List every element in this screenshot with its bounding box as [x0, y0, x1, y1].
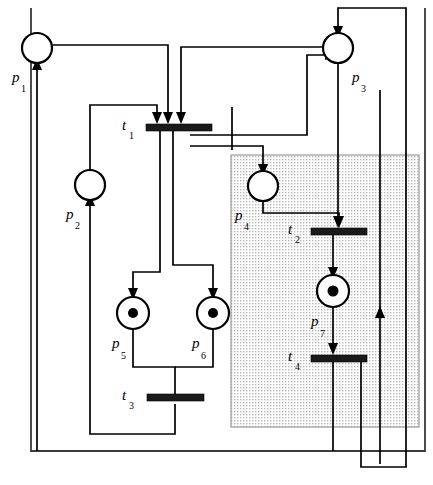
- label-p6-sub: 6: [201, 350, 206, 361]
- label-p2: p: [65, 206, 74, 222]
- label-t1: t: [122, 117, 127, 133]
- label-p3-sub: 3: [361, 83, 366, 94]
- arrowhead-p2-t1: [152, 112, 162, 124]
- label-p1-sub: 1: [21, 83, 26, 94]
- label-p4-sub: 4: [244, 221, 249, 232]
- arc-p5-to-t3: [133, 329, 175, 394]
- arc-t1-to-p3: [190, 55, 327, 135]
- petri-net-figure: p 1 p 2 p 3 p 4 p 5 p 6 p 7 t 1 t 2 t 3 …: [0, 0, 433, 485]
- transition-t4[interactable]: [311, 355, 367, 362]
- transition-t1[interactable]: [146, 124, 212, 131]
- label-p7: p: [310, 313, 319, 329]
- arc-p2-to-t1: [90, 105, 157, 170]
- label-p1: p: [11, 69, 20, 85]
- label-t3: t: [122, 387, 127, 403]
- label-p2-sub: 2: [75, 220, 80, 231]
- transition-t2[interactable]: [311, 228, 367, 235]
- label-p3: p: [351, 69, 360, 85]
- label-p4: p: [234, 207, 243, 223]
- transition-t3[interactable]: [147, 394, 204, 401]
- label-p7-sub: 7: [320, 328, 325, 339]
- place-p4[interactable]: [248, 171, 278, 201]
- label-t4-sub: 4: [295, 361, 300, 372]
- place-p2[interactable]: [75, 170, 105, 200]
- petri-net-canvas: p 1 p 2 p 3 p 4 p 5 p 6 p 7 t 1 t 2 t 3 …: [0, 0, 433, 485]
- token-p5: [128, 308, 138, 318]
- place-p1[interactable]: [22, 33, 52, 63]
- label-t3-sub: 3: [129, 400, 134, 411]
- label-p5-sub: 5: [121, 350, 126, 361]
- arrowhead-p1-t1: [163, 112, 173, 124]
- place-p3[interactable]: [323, 33, 353, 63]
- token-p7: [328, 286, 339, 297]
- label-t1-sub: 1: [129, 130, 134, 141]
- arc-t1-to-p5: [133, 131, 160, 292]
- arc-p3-to-t1: [181, 47, 323, 116]
- arc-t1-to-p6: [173, 131, 213, 292]
- arrowhead-p3-t1: [176, 112, 186, 124]
- label-t2-sub: 2: [295, 234, 300, 245]
- label-p6: p: [191, 335, 200, 351]
- token-p6: [208, 308, 218, 318]
- label-p5: p: [111, 335, 120, 351]
